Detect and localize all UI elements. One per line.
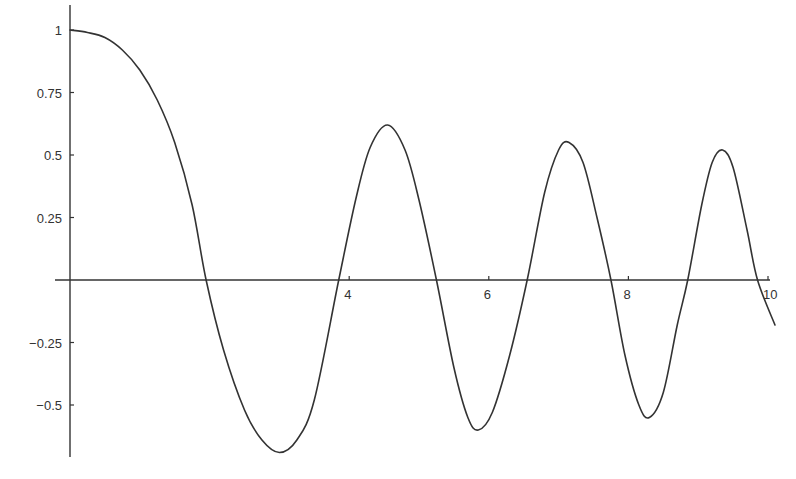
x-axis: 46810 bbox=[55, 276, 777, 302]
x-tick-label: 6 bbox=[484, 287, 491, 302]
line-chart: 10.750.50.25−0.25−0.5 46810 bbox=[0, 0, 796, 479]
x-tick-label: 4 bbox=[344, 287, 351, 302]
y-tick-label: −0.25 bbox=[29, 336, 62, 351]
y-tick-label: 1 bbox=[55, 23, 62, 38]
y-tick-label: 0.25 bbox=[37, 211, 62, 226]
y-tick-label: −0.5 bbox=[36, 398, 62, 413]
y-axis: 10.750.50.25−0.25−0.5 bbox=[29, 5, 74, 457]
data-line bbox=[70, 30, 775, 453]
y-tick-label: 0.75 bbox=[37, 86, 62, 101]
y-tick-label: 0.5 bbox=[44, 148, 62, 163]
x-tick-label: 8 bbox=[623, 287, 630, 302]
